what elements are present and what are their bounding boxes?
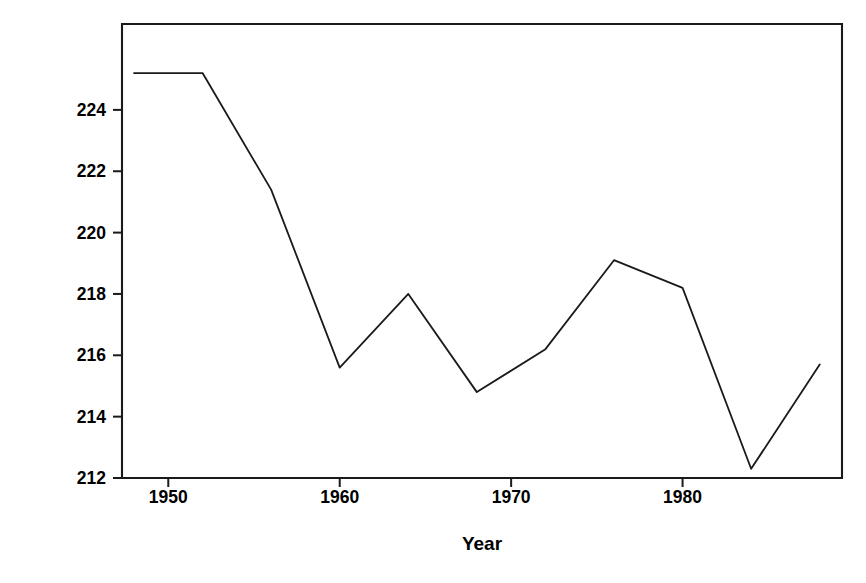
chart-figure: Time for 1500 m (s) Year 212214216218220… [0, 0, 866, 583]
y-tick-label: 218 [44, 284, 106, 304]
y-tick-label-text: 224 [44, 100, 106, 121]
x-axis-tick-marks [168, 478, 682, 487]
y-tick-label-text: 218 [44, 284, 106, 305]
y-tick-label: 216 [44, 345, 106, 365]
x-tick-label: 1970 [471, 487, 551, 508]
y-tick-label: 214 [44, 407, 106, 427]
y-tick-label-text: 216 [44, 345, 106, 366]
y-tick-label-text: 214 [44, 407, 106, 428]
x-tick-label: 1980 [643, 487, 723, 508]
y-tick-label: 212 [44, 468, 106, 488]
y-axis-tick-marks [113, 110, 122, 478]
y-tick-label-text: 220 [44, 223, 106, 244]
x-tick-label: 1960 [300, 487, 380, 508]
data-series-line [134, 73, 820, 469]
axis-frame [122, 24, 842, 478]
x-tick-label: 1950 [128, 487, 208, 508]
y-tick-label: 220 [44, 223, 106, 243]
y-tick-label: 222 [44, 161, 106, 181]
x-axis-title: Year [122, 533, 842, 555]
y-tick-label-text: 222 [44, 161, 106, 182]
y-tick-label-text: 212 [44, 468, 106, 489]
y-axis-title: Time for 1500 m (s) [0, 0, 40, 583]
y-tick-label: 224 [44, 100, 106, 120]
